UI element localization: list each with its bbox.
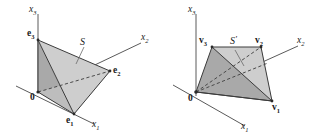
left-vertex-e2-dot <box>109 70 112 73</box>
left-axis-label-x1: x1 <box>92 120 99 130</box>
figure-canvas <box>0 0 314 140</box>
left-set-label-S: S <box>80 37 85 47</box>
left-axis-label-x3: x3 <box>29 5 36 15</box>
left-origin-dot <box>36 90 39 93</box>
left-panel-graphics <box>16 14 141 124</box>
figure-root: x3 x2 x1 e3 e2 e1 0 S x3 x2 x1 v3 v2 v1 … <box>0 0 314 140</box>
left-vertex-e3-dot <box>37 39 40 42</box>
left-point-label-e2: e2 <box>113 66 120 76</box>
right-axis-label-x2: x2 <box>297 36 304 46</box>
right-axis-label-x1: x1 <box>241 122 248 132</box>
left-point-label-e3: e3 <box>27 29 34 39</box>
left-vertex-e1-dot <box>73 113 76 116</box>
right-point-label-origin: 0 <box>188 94 193 104</box>
right-point-label-v3: v3 <box>199 36 207 46</box>
right-origin-dot <box>194 90 198 94</box>
right-set-label-S-prime: S′ <box>230 36 237 46</box>
left-axis-label-x2: x2 <box>141 33 148 43</box>
right-point-label-v2: v2 <box>255 36 263 46</box>
left-point-label-origin: 0 <box>30 93 35 103</box>
right-vertex-v3-dot <box>211 46 214 49</box>
left-point-label-e1: e1 <box>66 116 73 126</box>
right-point-label-v1: v1 <box>272 103 280 113</box>
right-axis-label-x3: x3 <box>188 5 195 15</box>
